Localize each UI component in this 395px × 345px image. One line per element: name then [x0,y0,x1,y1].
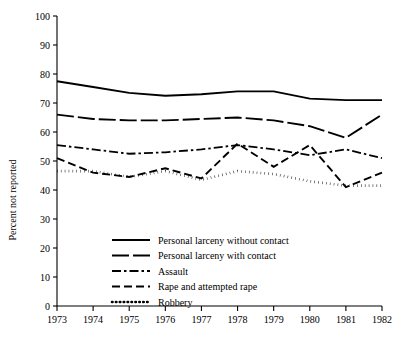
x-tick-label: 1977 [191,314,211,325]
legend-label-0: Personal larceny without contact [158,235,289,246]
legend-label-2: Assault [158,266,188,277]
y-tick-label: 40 [40,185,50,196]
x-tick-label: 1978 [228,314,248,325]
y-axis-ticks [53,16,57,306]
y-tick-label: 70 [40,98,50,109]
x-axis-ticks [57,306,382,311]
chart-container: 0102030405060708090100 19731974197519761… [0,0,395,345]
y-tick-label: 0 [45,301,50,312]
y-tick-label: 50 [40,156,50,167]
y-axis-title: Percent not reported [7,159,18,240]
y-tick-label: 100 [35,11,50,22]
chart-series-group [57,81,382,187]
series-line-0 [57,81,382,100]
line-chart: 0102030405060708090100 19731974197519761… [0,0,395,345]
y-tick-label: 20 [40,243,50,254]
x-tick-label: 1979 [264,314,284,325]
y-tick-label: 60 [40,127,50,138]
y-tick-label: 90 [40,40,50,51]
y-axis-tick-labels: 0102030405060708090100 [35,11,50,312]
series-line-1 [57,115,382,138]
x-tick-label: 1974 [83,314,103,325]
legend-label-1: Personal larceny with contact [158,250,276,261]
y-tick-label: 30 [40,214,50,225]
y-tick-label: 80 [40,69,50,80]
legend-label-3: Rape and attempted rape [158,281,258,292]
x-axis-tick-labels: 1973197419751976197719781979198019811982 [47,314,392,325]
y-tick-label: 10 [40,272,50,283]
chart-legend: Personal larceny without contactPersonal… [112,235,289,308]
x-tick-label: 1982 [372,314,392,325]
x-tick-label: 1976 [155,314,175,325]
series-line-2 [57,145,382,158]
x-tick-label: 1973 [47,314,67,325]
x-tick-label: 1980 [300,314,320,325]
x-tick-label: 1981 [336,314,356,325]
x-tick-label: 1975 [119,314,139,325]
legend-label-4: Robbery [158,297,192,308]
